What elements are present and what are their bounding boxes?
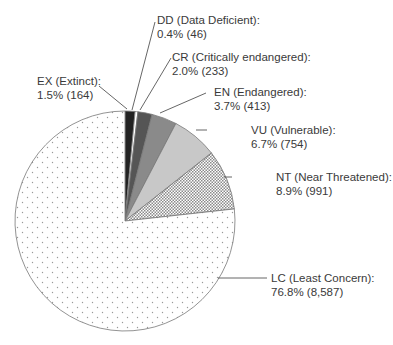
label-lc-name: LC (Least Concern):	[271, 271, 375, 285]
label-lc-value: 76.8% (8,587)	[271, 285, 375, 299]
label-nt-name: NT (Near Threatened):	[276, 170, 392, 184]
label-dd-value: 0.4% (46)	[157, 27, 260, 41]
label-ex-value: 1.5% (164)	[37, 88, 101, 102]
label-en: EN (Endangered): 3.7% (413)	[214, 85, 307, 113]
label-en-name: EN (Endangered):	[214, 85, 307, 99]
label-vu-name: VU (Vulnerable):	[251, 123, 336, 137]
leader-en	[160, 93, 206, 113]
label-nt-value: 8.9% (991)	[276, 184, 392, 198]
label-dd-name: DD (Data Deficient):	[157, 13, 260, 27]
label-nt: NT (Near Threatened): 8.9% (991)	[276, 170, 392, 198]
label-lc: LC (Least Concern): 76.8% (8,587)	[271, 271, 375, 299]
leader-ex	[99, 86, 127, 109]
label-ex-name: EX (Extinct):	[37, 74, 101, 88]
label-cr: CR (Critically endangered): 2.0% (233)	[172, 50, 311, 78]
label-vu: VU (Vulnerable): 6.7% (754)	[251, 123, 336, 151]
label-cr-name: CR (Critically endangered):	[172, 50, 311, 64]
leader-dd	[132, 22, 155, 110]
label-cr-value: 2.0% (233)	[172, 64, 311, 78]
pie-slices	[15, 111, 235, 331]
leader-cr	[140, 58, 171, 110]
label-dd: DD (Data Deficient): 0.4% (46)	[157, 13, 260, 41]
label-en-value: 3.7% (413)	[214, 99, 307, 113]
label-ex: EX (Extinct): 1.5% (164)	[37, 74, 101, 102]
label-vu-value: 6.7% (754)	[251, 137, 336, 151]
